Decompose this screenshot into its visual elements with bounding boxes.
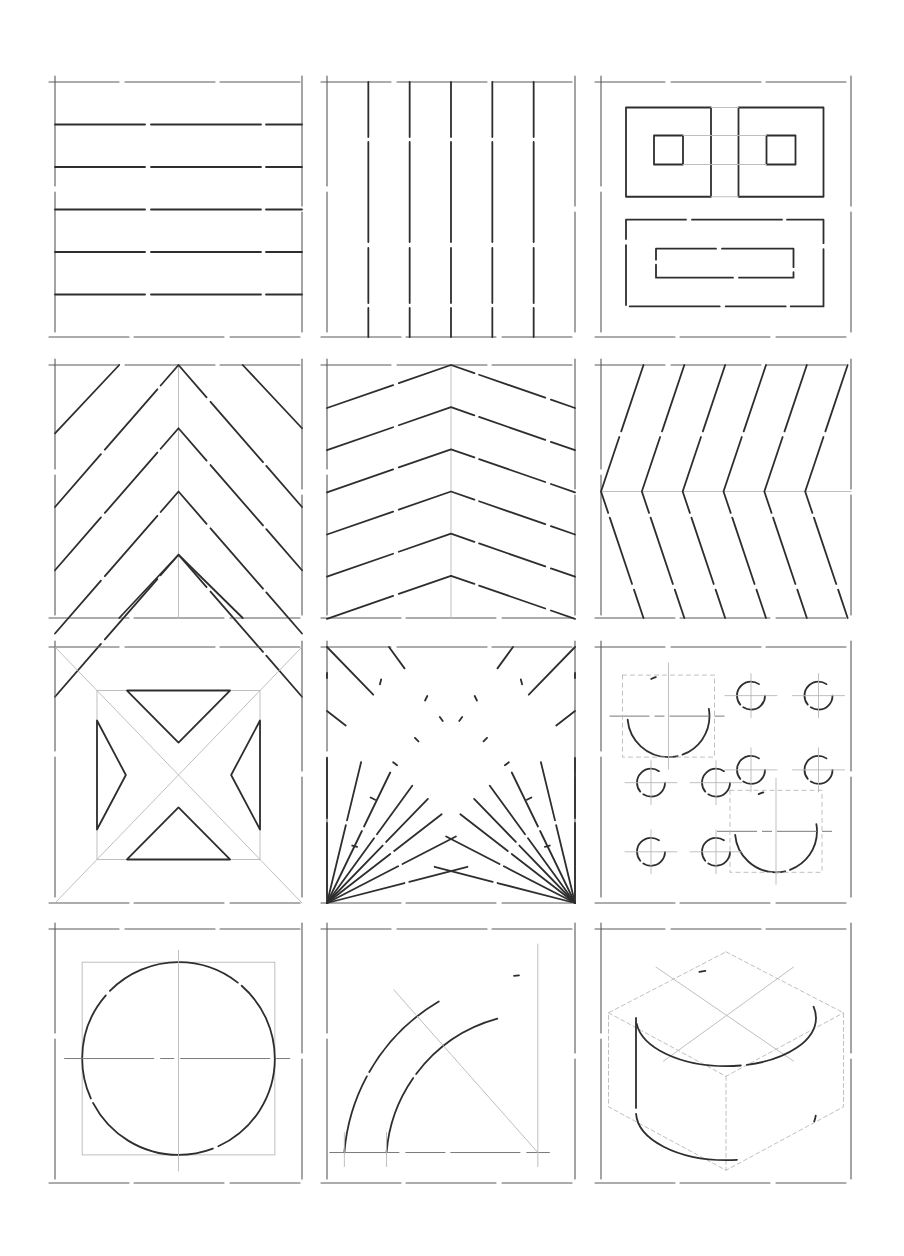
ink-line xyxy=(451,647,575,903)
ink-path xyxy=(243,365,302,428)
ink-path xyxy=(344,975,537,1153)
inner-square-left xyxy=(654,136,683,165)
drawing-exercise-sheet xyxy=(0,0,904,1256)
ink-line xyxy=(389,647,575,903)
inner-rectangle xyxy=(656,249,794,278)
ink-path xyxy=(55,365,119,433)
panel-nested-rectangles xyxy=(595,76,857,343)
panel-chevron-shallow xyxy=(321,359,581,624)
ink-line xyxy=(327,647,451,903)
guide-line xyxy=(664,967,794,1061)
panel-radiating-lines xyxy=(321,641,581,909)
ink-line xyxy=(513,647,575,903)
ink-path xyxy=(231,721,260,830)
ink-line xyxy=(327,647,513,903)
inner-square-right xyxy=(767,136,796,165)
panel-isometric-cylinder xyxy=(595,923,857,1189)
guide-path xyxy=(609,952,844,1170)
ink-path xyxy=(127,807,230,859)
panel-vertical-lines xyxy=(321,76,581,343)
panel-chevron-sideways xyxy=(595,359,857,624)
outer-square-left xyxy=(626,108,711,197)
ink-path xyxy=(97,721,126,830)
panel-chevron-45 xyxy=(49,359,308,697)
ink-line xyxy=(327,647,389,903)
ink-path xyxy=(636,1018,816,1160)
guide-line xyxy=(394,990,538,1153)
ink-path xyxy=(387,1013,538,1152)
panel-circle-sizes xyxy=(595,641,857,909)
panel-quarter-arc-band xyxy=(321,923,581,1189)
panel-circle-in-square xyxy=(49,923,308,1189)
ink-path xyxy=(127,691,230,743)
outer-square-right xyxy=(739,108,824,197)
guide-line xyxy=(656,967,794,1061)
panel-diagonal-x-frame xyxy=(49,641,308,909)
panel-horizontal-lines xyxy=(49,76,308,343)
